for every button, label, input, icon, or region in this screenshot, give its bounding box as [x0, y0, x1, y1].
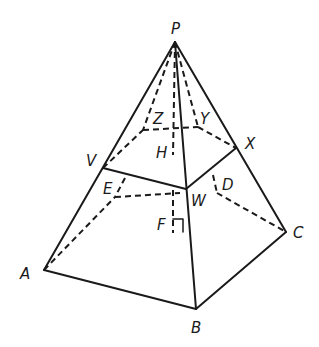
label-V: V — [86, 152, 98, 170]
label-Y: Y — [200, 110, 211, 128]
label-H: H — [156, 144, 167, 162]
edge-D-up — [213, 175, 217, 193]
label-Z: Z — [152, 110, 164, 128]
visible-edges — [44, 42, 286, 309]
label-D: D — [222, 176, 234, 194]
edge-ZY — [143, 127, 198, 130]
edge-VZ — [103, 130, 143, 168]
label-X: X — [244, 135, 256, 153]
label-W: W — [191, 192, 207, 210]
edge-AB — [44, 270, 196, 309]
label-A: A — [19, 265, 30, 283]
edge-E-up — [115, 178, 125, 197]
label-P: P — [171, 20, 181, 38]
edge-VW — [103, 168, 186, 189]
label-C: C — [293, 224, 304, 242]
right-angle-marker — [173, 219, 183, 232]
edge-EF — [115, 193, 180, 197]
label-F: F — [157, 216, 166, 234]
pyramid-diagram: P A B C V W X Y Z H E D F — [0, 0, 319, 347]
label-B: B — [191, 319, 201, 337]
label-E: E — [103, 180, 113, 198]
height-PH — [173, 42, 175, 155]
edge-BC — [196, 232, 286, 309]
